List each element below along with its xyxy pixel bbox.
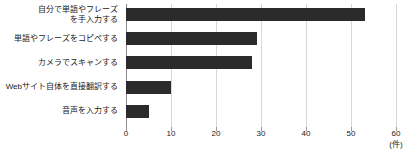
plot-area <box>126 4 396 127</box>
tick-label-50: 50 <box>347 129 356 139</box>
bar <box>126 32 257 45</box>
unit-label: (件) <box>389 140 402 150</box>
tick-label-60: 60 <box>392 129 401 139</box>
category-axis-labels: 自分で単語やフレーズ を手入力する単語やフレーズをコピペするカメラでスキャンする… <box>0 4 122 127</box>
tick-label-30: 30 <box>257 129 266 139</box>
horizontal-bar-chart: 自分で単語やフレーズ を手入力する単語やフレーズをコピペするカメラでスキャンする… <box>0 0 404 158</box>
bars <box>126 4 396 127</box>
tick-label-0: 0 <box>124 129 128 139</box>
bar <box>126 81 171 94</box>
value-axis-tick-labels: 0102030405060 <box>0 129 404 141</box>
category-label: Webサイト自体を直接翻訳する <box>6 82 118 92</box>
bar <box>126 56 252 69</box>
tick-label-20: 20 <box>212 129 221 139</box>
category-label: 自分で単語やフレーズ を手入力する <box>38 5 118 25</box>
category-label: カメラでスキャンする <box>38 58 118 68</box>
tick-label-10: 10 <box>167 129 176 139</box>
gridline-60 <box>396 4 397 127</box>
category-label: 音声を入力する <box>62 106 118 116</box>
category-label: 単語やフレーズをコピペする <box>14 34 118 44</box>
bar <box>126 105 149 118</box>
bar <box>126 8 365 21</box>
tick-label-40: 40 <box>302 129 311 139</box>
